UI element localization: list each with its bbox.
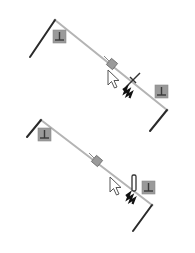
sketch-line[interactable] (133, 205, 152, 231)
perpendicular-relation-icon[interactable] (53, 30, 66, 43)
cursor-arrow-icon (108, 70, 119, 88)
perpendicular-relation-icon[interactable] (38, 128, 51, 141)
figure-top (30, 18, 169, 131)
perpendicular-relation-icon[interactable] (155, 85, 168, 98)
figure-bottom (27, 118, 155, 231)
sketch-canvas[interactable] (0, 0, 195, 253)
sketch-line[interactable] (30, 20, 55, 57)
vertical-bar-badge-icon (132, 175, 136, 191)
line-tool-icon (123, 87, 133, 99)
sketch-drawing (0, 0, 195, 253)
line-tool-icon (126, 193, 136, 205)
perpendicular-relation-icon[interactable] (142, 181, 155, 194)
sketch-line[interactable] (150, 110, 167, 131)
